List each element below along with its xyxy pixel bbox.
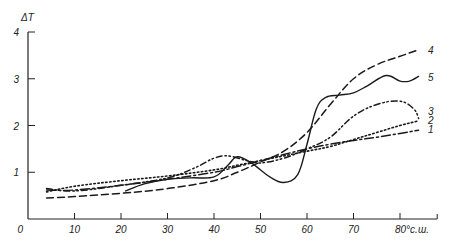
chart: 123401020304050607080°с.ш. 12345 ΔT	[0, 0, 464, 243]
series-group	[47, 50, 419, 198]
x-tick-label: 60	[301, 224, 313, 235]
x-tick-label: 30	[162, 224, 174, 235]
x-tick-label: 70	[348, 224, 360, 235]
series-line-4	[47, 50, 419, 198]
y-axis-title: ΔT	[21, 12, 34, 23]
y-tick-label: 1	[13, 167, 19, 178]
x-tick-label: 40	[208, 224, 220, 235]
axes: 123401020304050607080°с.ш.	[12, 27, 437, 235]
x-tick-label: 50	[255, 224, 267, 235]
y-tick-label: 2	[12, 121, 19, 132]
y-tick-label: 3	[13, 74, 19, 85]
series-label-3: 3	[428, 106, 434, 117]
series-labels: 12345	[427, 45, 434, 135]
y-tick-label: 4	[13, 27, 19, 38]
x-tick-label: 10	[69, 224, 81, 235]
series-label-5: 5	[428, 72, 434, 83]
x-tick-label: 20	[114, 224, 127, 235]
x-tick-label: 80°с.ш.	[395, 224, 429, 235]
series-line-3	[47, 101, 419, 191]
series-label-4: 4	[428, 45, 434, 56]
line-chart-canvas: 123401020304050607080°с.ш. 12345	[0, 0, 464, 243]
series-line-2	[47, 121, 419, 192]
x-tick-label: 0	[17, 224, 23, 235]
